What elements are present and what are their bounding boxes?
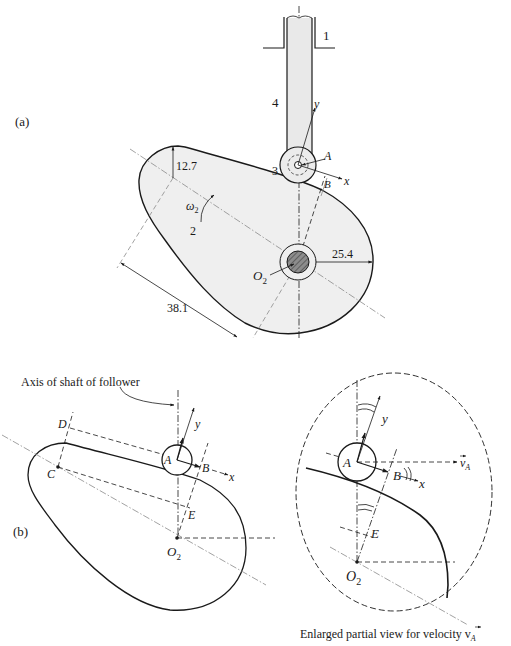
dim-12-7: 12.7 bbox=[176, 159, 197, 173]
panel-a: (a) 1 4 3 y x A B bbox=[15, 6, 385, 338]
follower-axis-annotation: Axis of shaft of follower bbox=[21, 375, 140, 389]
enlarged-boundary bbox=[296, 373, 492, 611]
velocity-label: vA bbox=[460, 456, 470, 472]
panel-b-label: (b) bbox=[13, 524, 28, 539]
x-label-b: x bbox=[228, 470, 235, 484]
point-a-label: A bbox=[323, 149, 332, 163]
link-label-1: 1 bbox=[323, 28, 330, 43]
rod-break bbox=[287, 16, 312, 18]
dim-25-4: 25.4 bbox=[332, 247, 353, 261]
point-o2-dot-enlarged bbox=[355, 560, 359, 564]
point-b-label-enlarged: B bbox=[393, 468, 401, 483]
point-e-label-enlarged: E bbox=[370, 526, 379, 541]
cam-follower-diagram: (a) 1 4 3 y x A B bbox=[0, 0, 511, 646]
dim-38-1: 38.1 bbox=[167, 301, 188, 315]
point-c-dot bbox=[56, 465, 60, 469]
y-label-a: y bbox=[313, 97, 320, 111]
angle-arc-b-1 bbox=[404, 468, 407, 480]
y-label-enlarged: y bbox=[380, 411, 388, 426]
svg-text:vA: vA bbox=[460, 456, 470, 472]
link-label-2: 2 bbox=[190, 224, 196, 238]
follower-rod bbox=[287, 18, 312, 153]
point-o2-dot-b bbox=[175, 536, 179, 540]
enlarged-caption: Enlarged partial view for velocity vA bbox=[300, 627, 481, 643]
x-label-a: x bbox=[343, 174, 350, 188]
angle-arc-top-1 bbox=[358, 404, 376, 407]
point-c-label: C bbox=[47, 467, 56, 481]
guide-left bbox=[263, 17, 284, 48]
point-d-label: D bbox=[57, 417, 67, 431]
link-label-3: 3 bbox=[272, 164, 278, 178]
angle-arc-mid-1 bbox=[358, 504, 374, 507]
point-a-label-enlarged: A bbox=[342, 455, 351, 470]
angle-arc-top-2 bbox=[358, 409, 374, 412]
x-axis-enlarged-ext bbox=[400, 476, 418, 481]
enlarged-view: A B x y E O2 vA Enlarged partial view fo… bbox=[296, 373, 492, 643]
y-label-b: y bbox=[194, 417, 201, 431]
cam-shaft bbox=[287, 251, 309, 273]
panel-b: (b) Axis of shaft of follower A B x y C … bbox=[2, 375, 275, 610]
svg-text:Enlarged partial view for velo: Enlarged partial view for velocity vA bbox=[300, 627, 476, 643]
angle-arc-mid-2 bbox=[358, 509, 372, 511]
x-axis-b-ext bbox=[212, 470, 228, 475]
point-a-label-b: A bbox=[163, 453, 172, 467]
panel-a-label: (a) bbox=[15, 114, 29, 129]
link-label-4: 4 bbox=[272, 95, 279, 110]
annotation-leader bbox=[120, 387, 174, 405]
point-b-label: B bbox=[324, 178, 331, 190]
point-o2-label-enlarged: O2 bbox=[346, 569, 361, 587]
point-e-label: E bbox=[187, 508, 196, 522]
x-label-enlarged: x bbox=[418, 476, 425, 491]
point-b-label-b: B bbox=[202, 461, 210, 475]
